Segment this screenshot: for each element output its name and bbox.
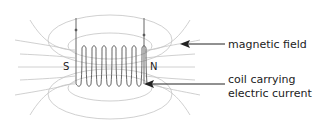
south-pole-label: S — [63, 61, 69, 72]
coil — [75, 18, 147, 86]
solenoid-diagram: S N magnetic field coil carrying electri… — [0, 0, 315, 129]
field-lines — [15, 15, 200, 119]
field-diagram-graphic — [0, 0, 315, 129]
coil-label-line2: electric current — [228, 87, 312, 100]
magnetic-field-label: magnetic field — [228, 38, 307, 51]
north-pole-label: N — [150, 61, 157, 72]
coil-label-line1: coil carrying — [228, 73, 296, 86]
